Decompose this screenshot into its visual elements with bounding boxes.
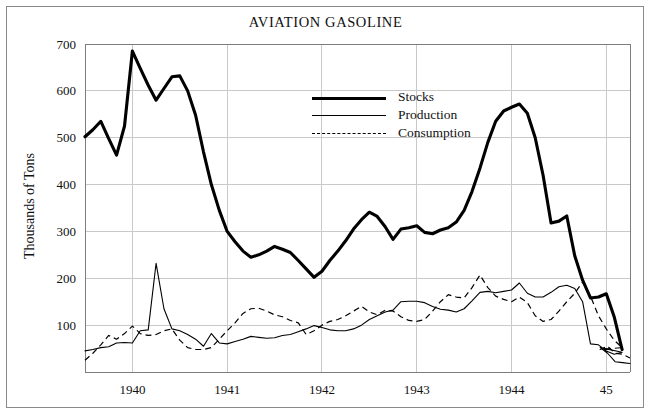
y-tick-label: 400 — [57, 177, 77, 192]
x-tick-label: 45 — [600, 382, 613, 397]
legend-label: Production — [388, 107, 457, 123]
legend-label: Consumption — [388, 125, 471, 141]
x-tick-label: 1940 — [119, 382, 145, 397]
y-tick-labels: 100200300400500600700 — [57, 37, 77, 333]
legend-swatch-production-icon — [310, 108, 388, 122]
y-tick-label: 200 — [57, 271, 77, 286]
y-tick-label: 500 — [57, 130, 77, 145]
x-tick-label: 1943 — [404, 382, 430, 397]
x-tick-labels: 1940194119421943194445 — [119, 382, 612, 397]
y-tick-label: 100 — [57, 318, 77, 333]
y-tick-label: 600 — [57, 83, 77, 98]
legend-item-consumption[interactable]: Consumption — [310, 124, 490, 142]
legend-item-stocks[interactable]: Stocks — [310, 88, 490, 106]
plot-area: 100200300400500600700 194019411942194319… — [0, 0, 651, 415]
x-tick-label: 1944 — [499, 382, 526, 397]
x-tick-label: 1942 — [309, 382, 335, 397]
legend-swatch-stocks-icon — [310, 90, 388, 104]
chart-figure: AVIATION GASOLINE Thousands of Tons 1002… — [0, 0, 651, 415]
chart-legend: StocksProductionConsumption — [310, 88, 490, 142]
legend-swatch-consumption-icon — [310, 126, 388, 140]
series-line-consumption — [85, 275, 630, 360]
legend-label: Stocks — [388, 89, 434, 105]
x-tick-label: 1941 — [214, 382, 240, 397]
y-tick-label: 300 — [57, 224, 77, 239]
legend-item-production[interactable]: Production — [310, 106, 490, 124]
y-tick-label: 700 — [57, 37, 77, 52]
